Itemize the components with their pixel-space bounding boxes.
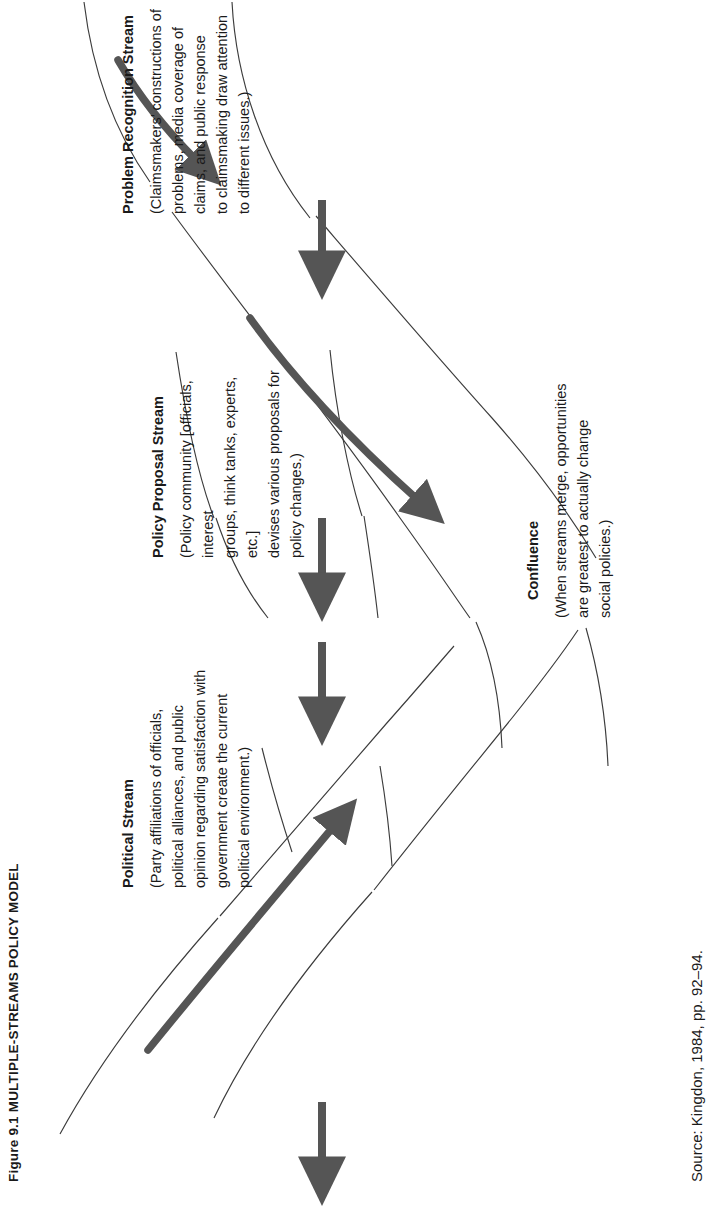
confluence-body: (When streams merge, opportunities are g… — [550, 383, 616, 618]
confluence-heading: Confluence — [525, 383, 541, 618]
political-stream-body: (Party affiliations of officials, politi… — [145, 648, 255, 888]
figure-canvas: Figure 9.1 MULTIPLE-STREAMS POLICY MODEL… — [0, 0, 719, 1218]
policy-proposal-stream-heading: Policy Proposal Stream — [150, 353, 166, 558]
block-problem-recognition-stream: Problem Recognition Stream (Claimsmakers… — [120, 0, 255, 214]
problem-recognition-stream-body: (Claimsmakers’ constructions of problems… — [145, 0, 255, 214]
policy-proposal-stream-body: (Policy community [officials, interest g… — [175, 353, 307, 558]
problem-recognition-stream-heading: Problem Recognition Stream — [120, 0, 136, 214]
political-stream-heading: Political Stream — [120, 648, 136, 888]
figure-title: Figure 9.1 MULTIPLE-STREAMS POLICY MODEL — [6, 863, 21, 1182]
block-confluence: Confluence (When streams merge, opportun… — [525, 383, 616, 618]
source-citation: Source: Kingdon, 1984, pp. 92–94. — [688, 950, 705, 1182]
block-policy-proposal-stream: Policy Proposal Stream (Policy community… — [150, 353, 307, 558]
block-political-stream: Political Stream (Party affiliations of … — [120, 648, 255, 888]
